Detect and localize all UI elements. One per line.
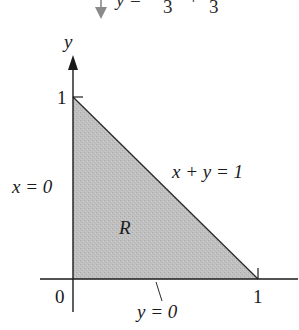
hypotenuse-label: x + y = 1 — [171, 161, 243, 182]
region-label: R — [118, 217, 131, 238]
origin-label: 0 — [55, 286, 65, 307]
y-axis-label: y — [62, 31, 73, 52]
y-tick-label: 1 — [57, 87, 67, 108]
left-boundary-label: x = 0 — [11, 176, 53, 197]
x-tick-label: 1 — [253, 286, 263, 307]
header-y-var: y — [114, 0, 125, 10]
header-fragment: y = 3 + 3 — [95, 0, 219, 19]
header-denominator-1: 3 — [163, 0, 173, 17]
header-denominator-2: 3 — [209, 0, 219, 17]
y0-leader-line — [156, 282, 162, 301]
header-plus: + — [188, 0, 199, 8]
header-equals: = — [130, 0, 141, 10]
bottom-boundary-label: y = 0 — [135, 301, 178, 322]
down-arrow-icon — [95, 0, 107, 19]
y-axis-arrow-icon — [68, 55, 78, 70]
region-diagram: y = 3 + 3 y 1 0 1 x = 0 x + y = 1 y = 0 … — [0, 0, 299, 330]
